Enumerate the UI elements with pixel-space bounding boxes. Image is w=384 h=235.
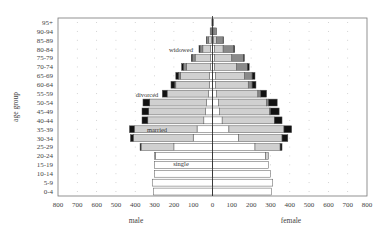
female-married-bar xyxy=(218,99,266,106)
x-tick-label: 200 xyxy=(246,201,257,209)
female-married-bar xyxy=(219,108,269,115)
female-single-bar xyxy=(213,90,217,97)
male-married-bar xyxy=(149,108,206,115)
y-tick-label: 70-74 xyxy=(37,63,54,71)
female-married-bar xyxy=(213,37,216,44)
male-divorced-bar xyxy=(199,46,200,53)
male-widowed-bar xyxy=(192,55,195,62)
y-tick-label: 10-14 xyxy=(37,170,54,178)
x-tick-label: 300 xyxy=(149,201,160,209)
x-tick-label: 500 xyxy=(111,201,122,209)
male-widowed-bar xyxy=(210,28,211,35)
female-single-bar xyxy=(213,81,216,88)
male-divorced-bar xyxy=(142,108,149,115)
female-widowed-bar xyxy=(258,90,261,97)
y-tick-label: 55-59 xyxy=(37,90,54,98)
female-divorced-bar xyxy=(261,90,267,97)
x-tick-label: 400 xyxy=(285,201,296,209)
male-married-bar xyxy=(133,135,193,142)
female-divorced-bar xyxy=(270,108,279,115)
y-axis-labels: 0-45-910-1415-1920-2425-2930-3435-3940-4… xyxy=(37,19,54,196)
male-divorced-bar xyxy=(143,99,150,106)
female-married-bar xyxy=(214,46,223,53)
y-tick-label: 75-79 xyxy=(37,54,54,62)
male-single-bar xyxy=(197,126,212,133)
male-divorced-bar xyxy=(142,117,148,124)
x-axis-title-female: female xyxy=(281,216,302,225)
female-married-bar xyxy=(214,55,231,62)
male-single-bar xyxy=(152,179,212,186)
male-single-bar xyxy=(210,72,213,79)
x-tick-label: 300 xyxy=(265,201,276,209)
x-axis-title-male: male xyxy=(129,216,144,225)
female-widowed-bar xyxy=(237,64,248,71)
y-tick-label: 0-4 xyxy=(44,188,54,196)
female-single-bar xyxy=(213,126,229,133)
y-tick-label: 50-54 xyxy=(37,99,54,107)
x-tick-label: 100 xyxy=(188,201,199,209)
female-single-bar xyxy=(213,188,272,195)
y-tick-label: 85-89 xyxy=(37,37,54,45)
male-married-bar xyxy=(203,46,211,53)
female-single-bar xyxy=(213,99,219,106)
y-tick-label: 35-39 xyxy=(37,126,54,134)
female-married-bar xyxy=(266,153,269,160)
female-married-bar xyxy=(216,90,258,97)
female-single-bar xyxy=(213,153,266,160)
y-tick-label: 5-9 xyxy=(44,179,54,187)
male-divorced-bar xyxy=(176,72,179,79)
female-widowed-bar xyxy=(248,81,252,88)
male-married-bar xyxy=(141,144,174,151)
female-divorced-bar xyxy=(274,117,282,124)
female-divorced-bar xyxy=(252,81,256,88)
x-tick-label: 700 xyxy=(342,201,353,209)
female-married-bar xyxy=(222,117,274,124)
female-single-bar xyxy=(213,179,273,186)
x-tick-label: 800 xyxy=(53,201,64,209)
female-single-bar xyxy=(213,135,239,142)
male-single-bar xyxy=(207,99,213,106)
x-tick-label: 800 xyxy=(362,201,373,209)
female-single-bar xyxy=(213,170,271,177)
y-tick-label: 80-84 xyxy=(37,46,54,54)
annotation-single: single xyxy=(173,160,189,167)
x-axis-labels: 8007006005004003002001000100200300400500… xyxy=(53,201,373,209)
male-single-bar xyxy=(156,153,213,160)
y-tick-label: 90-94 xyxy=(37,28,54,36)
female-divorced-bar xyxy=(247,64,249,71)
female-widowed-bar xyxy=(216,37,223,44)
female-divorced-bar xyxy=(252,72,255,79)
male-single-bar xyxy=(204,117,213,124)
female-married-bar xyxy=(239,135,282,142)
x-tick-label: 600 xyxy=(91,201,102,209)
male-divorced-bar xyxy=(129,126,134,133)
female-married-bar xyxy=(214,64,236,71)
y-tick-label: 20-24 xyxy=(37,152,54,160)
male-widowed-bar xyxy=(200,46,203,53)
female-widowed-bar xyxy=(244,72,252,79)
female-single-bar xyxy=(213,108,220,115)
female-widowed-bar xyxy=(223,46,234,53)
y-tick-label: 25-29 xyxy=(37,143,54,151)
x-tick-label: 400 xyxy=(130,201,141,209)
male-widowed-bar xyxy=(179,72,181,79)
female-single-bar xyxy=(213,117,223,124)
y-axis-title: age group xyxy=(11,92,20,122)
female-widowed-bar xyxy=(214,28,217,35)
x-tick-label: 700 xyxy=(72,201,83,209)
x-tick-label: 200 xyxy=(169,201,180,209)
male-married-bar xyxy=(181,72,210,79)
annotation-married: married xyxy=(147,126,168,133)
male-divorced-bar xyxy=(140,144,141,151)
male-single-bar xyxy=(210,81,213,88)
female-divorced-bar xyxy=(284,126,292,133)
male-single-bar xyxy=(174,144,213,151)
female-married-bar xyxy=(229,126,284,133)
male-married-bar xyxy=(195,55,210,62)
y-tick-label: 60-64 xyxy=(37,81,54,89)
y-tick-label: 40-44 xyxy=(37,117,54,125)
y-tick-label: 30-34 xyxy=(37,135,54,143)
male-married-bar xyxy=(150,99,207,106)
x-tick-label: 0 xyxy=(211,201,215,209)
male-married-bar xyxy=(148,117,204,124)
